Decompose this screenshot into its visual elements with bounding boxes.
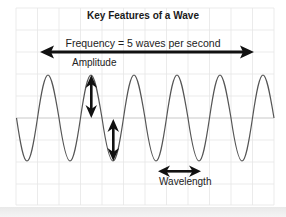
diagram-title: Key Features of a Wave <box>0 10 286 21</box>
wave-diagram-canvas <box>0 0 286 217</box>
wavelength-label: Wavelength <box>159 176 211 187</box>
frequency-label: Frequency = 5 waves per second <box>0 37 286 49</box>
wave-diagram: Key Features of a Wave Frequency = 5 wav… <box>0 0 286 217</box>
amplitude-label: Amplitude <box>72 57 116 68</box>
bottom-border <box>0 207 286 217</box>
